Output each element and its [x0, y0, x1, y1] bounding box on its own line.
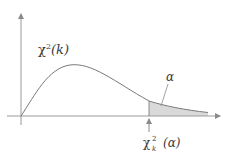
curve-label: χ2(k) [38, 42, 69, 57]
alpha-leader-line [161, 84, 168, 106]
critical-label-sup: 2 [152, 135, 156, 143]
critical-label-sub: k [152, 145, 156, 153]
critical-value-label: χ [143, 136, 151, 150]
tail-area-label: α [166, 70, 174, 84]
density-curve [21, 65, 208, 116]
critical-label-arg: (α) [163, 136, 181, 150]
chi-square-chart: χ2(k) α χ 2 k (α) [0, 0, 229, 155]
